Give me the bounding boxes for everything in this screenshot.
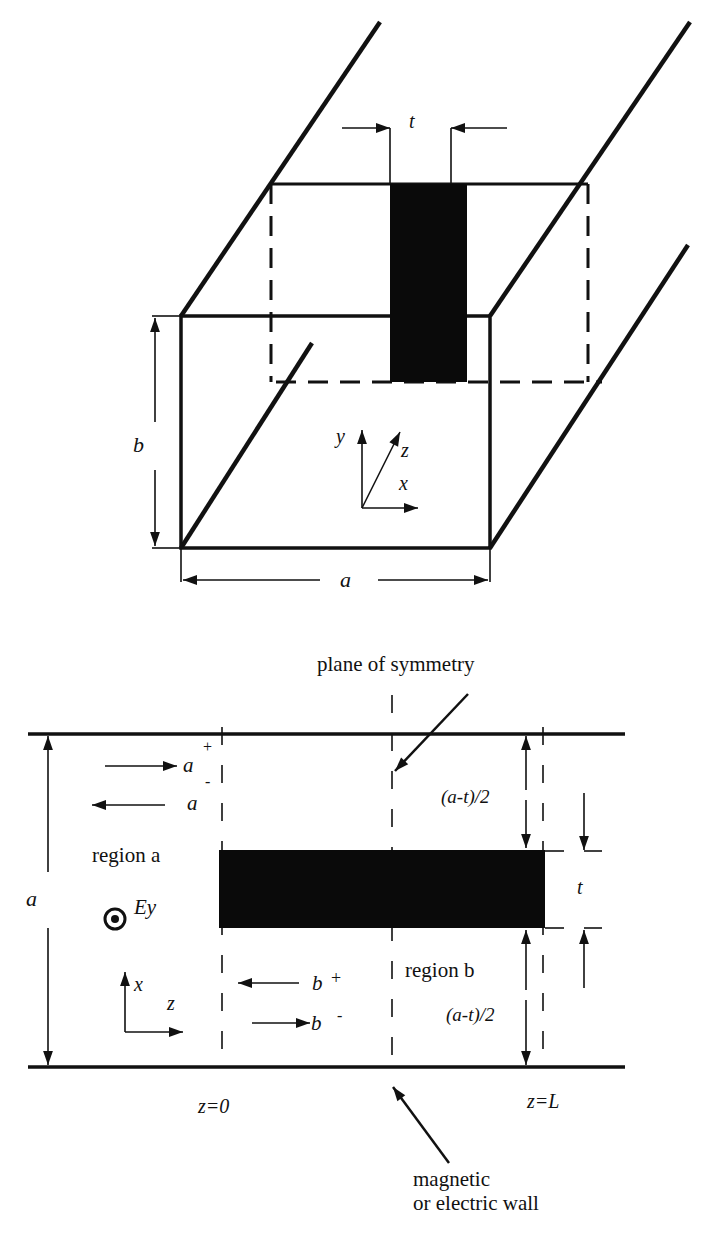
axis-label-x: x [398, 472, 408, 494]
label-z0: z=0 [197, 1095, 229, 1117]
guide-edge-lower-left [181, 343, 312, 548]
axis-label-x-2d: x [133, 973, 143, 995]
label-gap-lower: (a-t)/2 [446, 1004, 495, 1026]
waveguide-3d-view [152, 22, 690, 582]
label-wave-a-plus: a [183, 753, 194, 777]
guide-edge-upper-right [490, 22, 690, 316]
guide-edge-upper-left [181, 22, 380, 316]
dielectric-slab-section [219, 850, 545, 928]
field-out-of-page-icon [105, 909, 125, 929]
label-region-a: region a [92, 843, 161, 867]
label-wall-line2: or electric wall [413, 1191, 539, 1215]
label-region-b: region b [405, 958, 474, 982]
label-wall-line1: magnetic [413, 1167, 490, 1191]
label-wave-a-plus-sup: + [203, 738, 212, 755]
waveguide-diagram: t b a y z x [0, 0, 705, 1253]
label-wave-b-minus-sup: - [337, 1007, 342, 1024]
label-wave-b-plus: b [312, 971, 323, 995]
label-t-top: t [409, 110, 415, 132]
label-wave-b-minus: b [311, 1011, 322, 1035]
axis-label-y: y [334, 425, 345, 448]
label-wave-a-minus: a [187, 791, 198, 815]
wall-pointer-arrow [393, 1087, 449, 1163]
label-gap-upper: (a-t)/2 [441, 786, 490, 808]
label-ey: Ey [133, 895, 157, 919]
label-zL: z=L [526, 1090, 559, 1112]
label-plane-of-symmetry: plane of symmetry [317, 652, 475, 676]
label-wave-b-plus-sup: + [331, 968, 341, 988]
axis-z-arrow [362, 432, 400, 508]
dielectric-slab [390, 184, 467, 382]
label-a-section: a [26, 886, 37, 911]
label-a-top: a [340, 567, 351, 592]
axis-label-z-2d: z [166, 992, 175, 1014]
label-b: b [133, 432, 144, 457]
axis-label-z: z [400, 439, 409, 461]
label-wave-a-minus-sup: - [205, 773, 210, 790]
label-t-section: t [577, 876, 583, 898]
